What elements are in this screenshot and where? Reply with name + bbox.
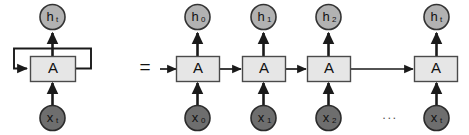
step-1-cell-label: A [259, 59, 269, 76]
step-1-input-node-subscript: 1 [267, 116, 272, 125]
rnn-unrolled-diagram: A h t x t = A [0, 0, 469, 135]
step-2-input-node-label: x [323, 110, 330, 125]
sequence-ellipsis: ... [382, 107, 397, 122]
step-t-cell-label: A [431, 59, 441, 76]
step-1-hidden-node-label: h [257, 9, 264, 24]
step-0-hidden-node-label: h [191, 9, 198, 24]
step-0-input-node-subscript: 0 [201, 116, 206, 125]
step-1-input-node-label: x [258, 110, 265, 125]
unrolled-step-2: A h 2 x 2 [308, 5, 351, 131]
unrolled-rnn-group: A h 0 x 0 A h 1 x 1 [160, 5, 458, 131]
step-2-hidden-node-label: h [322, 9, 329, 24]
step-0-input-node-label: x [192, 110, 199, 125]
unrolled-step-0: A h 0 x 0 [177, 5, 220, 131]
step-0-hidden-node-subscript: 0 [201, 15, 206, 24]
equals-sign: = [139, 56, 150, 77]
step-1-hidden-node-subscript: 1 [267, 15, 272, 24]
step-t-input-node-label: x [431, 110, 438, 125]
step-t-hidden-node-label: h [430, 9, 437, 24]
step-0-cell-label: A [193, 59, 203, 76]
step-2-hidden-node-subscript: 2 [332, 15, 337, 24]
folded-input-node-label: x [47, 110, 54, 125]
unrolled-step-1: A h 1 x 1 [243, 5, 286, 131]
folded-rnn-group: A h t x t [14, 5, 91, 131]
step-2-input-node-subscript: 2 [332, 116, 337, 125]
rnn-diagram-canvas: A h t x t = A [0, 0, 469, 135]
unrolled-step-t: A h t x t [415, 5, 458, 131]
folded-hidden-node-label: h [46, 9, 53, 24]
step-2-cell-label: A [324, 59, 334, 76]
folded-cell-label: A [48, 59, 58, 76]
